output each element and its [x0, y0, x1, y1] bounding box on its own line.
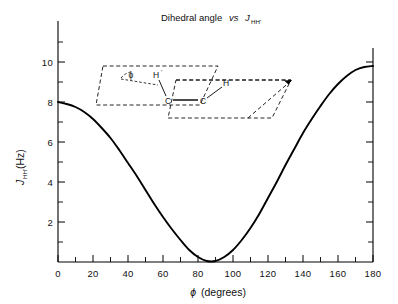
y-tick-label-8: 8 — [47, 97, 53, 108]
inset-atom-c-right: C — [200, 96, 206, 106]
title-text-main: Dihedral angle — [161, 12, 222, 23]
x-tick-label-100: 100 — [225, 268, 242, 279]
inset-atom-h: H — [223, 78, 229, 88]
y-tick-label-4: 4 — [47, 177, 53, 188]
x-tick-label-160: 160 — [330, 268, 347, 279]
y-tick-label-6: 6 — [47, 137, 53, 148]
x-axis-title-symbol: ϕ — [190, 286, 196, 298]
x-tick-label-180: 180 — [365, 268, 382, 279]
x-tick-label-0: 0 — [55, 268, 61, 279]
x-tick-label-140: 140 — [295, 268, 312, 279]
title-symbol-j: J — [244, 12, 250, 23]
y-tick-label-10: 10 — [42, 57, 53, 68]
y-axis-title-unit: (Hz) — [14, 149, 26, 169]
title-subscript-hh: HH′ — [251, 18, 262, 25]
chart-svg: Dihedral angle vs J HH′ — [0, 0, 398, 304]
karplus-curve-figure: Dihedral angle vs J HH′ — [0, 0, 398, 304]
inset-angle-label: ϕ — [129, 70, 134, 80]
x-tick-label-120: 120 — [260, 268, 277, 279]
inset-atom-h-prime: H — [153, 70, 159, 80]
inset-atom-c-left: C — [165, 96, 171, 106]
x-tick-label-60: 60 — [157, 268, 168, 279]
y-axis-title-symbol: J — [14, 179, 26, 186]
x-tick-label-20: 20 — [87, 268, 98, 279]
x-tick-label-80: 80 — [192, 268, 203, 279]
x-axis-title-unit: (degrees) — [201, 286, 246, 298]
x-tick-label-40: 40 — [122, 268, 133, 279]
y-axis-title: J HH′ (Hz) — [14, 149, 28, 186]
title-text-vs: vs — [229, 12, 239, 23]
y-tick-label-2: 2 — [47, 217, 53, 228]
